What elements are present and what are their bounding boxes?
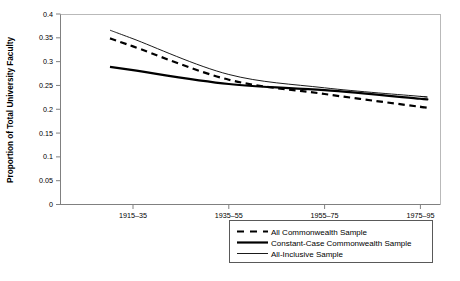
y-tick-marks <box>56 14 61 205</box>
y-axis-title: Proportion of Total University Faculty <box>6 37 15 183</box>
plot-area <box>61 14 441 205</box>
chart-figure: 00.050.10.150.20.250.30.350.4 1915–35193… <box>0 0 460 281</box>
x-tick-label: 1955–75 <box>311 211 339 220</box>
y-tick-label: 0.05 <box>39 176 53 185</box>
data-series-layer <box>110 30 427 108</box>
x-tick-labels: 1915–351935–551955–751975–95 <box>119 211 434 220</box>
legend-label: All Commonwealth Sample <box>271 228 368 237</box>
y-tick-label: 0.35 <box>39 33 53 42</box>
y-tick-label: 0.2 <box>43 105 53 114</box>
x-tick-label: 1915–35 <box>119 211 147 220</box>
y-tick-label: 0.1 <box>43 152 53 161</box>
legend-label: All-Inclusive Sample <box>271 250 344 259</box>
series-line-2 <box>110 67 427 100</box>
line-chart: 00.050.10.150.20.250.30.350.4 1915–35193… <box>0 0 460 281</box>
y-tick-label: 0.25 <box>39 81 53 90</box>
y-tick-label: 0.3 <box>43 57 53 66</box>
legend-label: Constant-Case Commonwealth Sample <box>271 239 412 248</box>
x-tick-label: 1975–95 <box>406 211 434 220</box>
y-tick-label: 0 <box>49 200 53 209</box>
y-tick-labels: 00.050.10.150.20.250.30.350.4 <box>39 10 53 210</box>
x-tick-label: 1935–55 <box>215 211 243 220</box>
y-tick-label: 0.4 <box>43 10 53 19</box>
y-tick-label: 0.15 <box>39 129 53 138</box>
x-tick-marks <box>133 205 420 210</box>
legend: All Commonwealth SampleConstant-Case Com… <box>230 221 433 263</box>
